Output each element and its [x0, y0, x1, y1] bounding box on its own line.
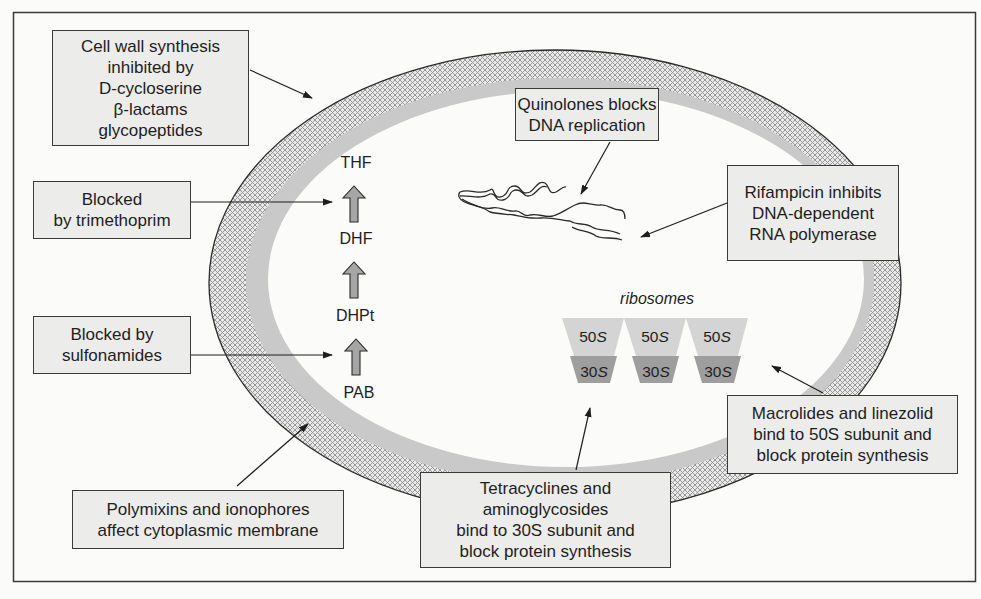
ribosome-3-50s-label: 50S: [703, 328, 731, 346]
ribosome-3-30s-value: 30: [704, 363, 721, 380]
box-line: Blocked: [82, 189, 142, 210]
box-rifampicin: Rifampicin inhibits DNA-dependent RNA po…: [727, 165, 899, 261]
svedberg-unit: S: [658, 328, 668, 345]
box-line: Polymixins and ionophores: [106, 499, 309, 520]
ribosome-2-50s-value: 50: [641, 328, 658, 345]
box-line: Tetracyclines and: [480, 478, 611, 499]
box-trimethoprim: Blocked by trimethoprim: [33, 181, 191, 239]
svedberg-unit: S: [596, 328, 606, 345]
box-macrolides: Macrolides and linezolid bind to 50S sub…: [727, 395, 958, 474]
box-line: bind to 30S subunit and: [456, 520, 635, 541]
box-line: inhibited by: [107, 57, 193, 78]
box-line: affect cytoplasmic membrane: [98, 520, 319, 541]
box-polymixins: Polymixins and ionophores affect cytopla…: [72, 490, 344, 549]
ribosome-3-30s-label: 30S: [704, 363, 732, 381]
svedberg-unit: S: [597, 363, 607, 380]
metabolite-dhf: DHF: [340, 230, 373, 248]
box-line: Blocked by: [70, 324, 153, 345]
ribosome-1-50s-label: 50S: [579, 328, 607, 346]
ribosome-3-50s-value: 50: [703, 328, 720, 345]
box-line: block protein synthesis: [460, 541, 632, 562]
box-line: β-lactams: [113, 99, 187, 120]
metabolite-thf: THF: [340, 154, 371, 172]
box-line: Cell wall synthesis: [81, 36, 220, 57]
ribosome-2-30s-value: 30: [642, 363, 659, 380]
ribosome-1-30s-label: 30S: [580, 363, 608, 381]
box-tetracyclines: Tetracyclines and aminoglycosides bind t…: [420, 472, 671, 568]
box-line: Quinolones blocks: [518, 94, 657, 115]
box-line: DNA replication: [528, 115, 645, 136]
box-line: bind to 50S subunit and: [753, 424, 932, 445]
box-line: D-cycloserine: [99, 78, 202, 99]
ribosome-1-50s-value: 50: [579, 328, 596, 345]
svedberg-unit: S: [720, 328, 730, 345]
svedberg-unit: S: [721, 363, 731, 380]
svedberg-unit: S: [659, 363, 669, 380]
box-line: by trimethoprim: [53, 210, 170, 231]
box-line: DNA-dependent: [752, 203, 874, 224]
box-cell-wall-synthesis: Cell wall synthesis inhibited by D-cyclo…: [52, 30, 249, 146]
metabolite-dhpt: DHPt: [336, 307, 374, 325]
ribosome-2-30s-label: 30S: [642, 363, 670, 381]
box-line: Macrolides and linezolid: [752, 403, 933, 424]
box-line: Rifampicin inhibits: [745, 182, 882, 203]
box-line: aminoglycosides: [483, 499, 609, 520]
arrow-cell-wall: [250, 70, 312, 98]
box-quinolones: Quinolones blocks DNA replication: [515, 88, 659, 141]
box-line: glycopeptides: [99, 120, 203, 141]
box-line: sulfonamides: [62, 345, 162, 366]
box-sulfonamides: Blocked by sulfonamides: [33, 316, 191, 374]
box-line: block protein synthesis: [757, 445, 929, 466]
ribosome-2-50s-label: 50S: [641, 328, 669, 346]
metabolite-pab: PAB: [344, 384, 375, 402]
ribosome-1-30s-value: 30: [580, 363, 597, 380]
arrow-polymixins: [237, 424, 308, 486]
box-line: RNA polymerase: [749, 224, 877, 245]
ribosomes-label: ribosomes: [620, 290, 694, 308]
